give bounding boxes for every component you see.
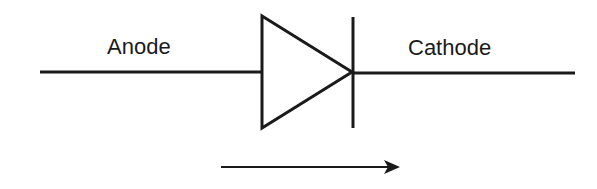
- diode-schematic: [0, 0, 597, 189]
- diode-diagram: Anode Cathode: [0, 0, 597, 189]
- anode-label: Anode: [107, 36, 171, 58]
- diode-triangle: [262, 16, 352, 128]
- cathode-label: Cathode: [408, 37, 491, 59]
